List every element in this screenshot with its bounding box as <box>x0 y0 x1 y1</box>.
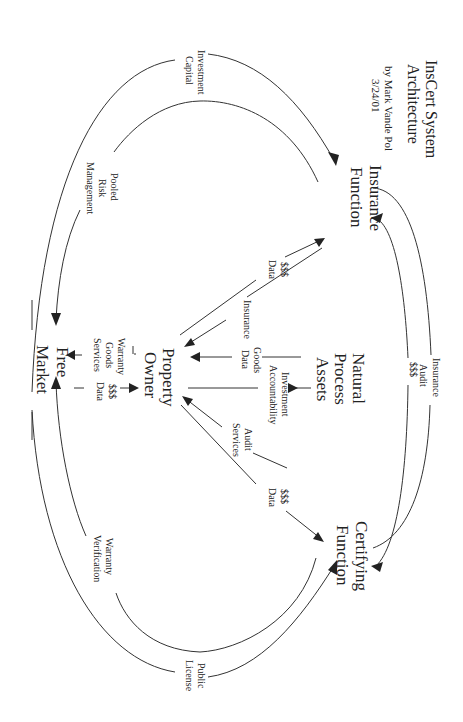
svg-text:Services: Services <box>92 338 103 372</box>
flow-investment-capital: Investment Capital <box>32 50 339 392</box>
node-property-owner: Property Owner <box>141 348 178 407</box>
svg-text:Services: Services <box>231 423 242 457</box>
svg-text:Accountability: Accountability <box>268 365 279 424</box>
svg-text:Certifying: Certifying <box>352 521 371 591</box>
svg-text:Goods: Goods <box>252 347 263 373</box>
node-natural-process-assets: Natural Process Assets <box>313 353 368 405</box>
svg-text:Verification: Verification <box>92 535 103 582</box>
flow-insurance-certifying-money: $$$ <box>371 213 419 572</box>
svg-text:Insurance: Insurance <box>366 165 385 231</box>
svg-text:$$$: $$$ <box>279 489 290 504</box>
svg-text:Risk: Risk <box>97 179 108 197</box>
arrowhead-icon <box>184 338 195 347</box>
svg-text:Management: Management <box>85 162 96 214</box>
arrowhead-icon <box>182 396 193 406</box>
flow-pooled-risk-management: Pooled Risk Management <box>51 101 318 326</box>
title-line-2: Architecture <box>405 64 422 144</box>
svg-text:Audit: Audit <box>243 428 254 451</box>
flow-market-to-owner: $$$ Data <box>74 382 139 401</box>
svg-text:Data: Data <box>267 260 278 279</box>
svg-text:Data: Data <box>267 488 278 507</box>
svg-text:Insurance: Insurance <box>431 358 442 397</box>
svg-text:Warranty: Warranty <box>116 338 127 375</box>
architecture-diagram: InsCert System Architecture by Mark Vand… <box>0 0 463 722</box>
flow-goods-data: Goods Data <box>190 347 301 373</box>
svg-text:Data: Data <box>240 350 251 369</box>
svg-text:Investment: Investment <box>196 50 207 95</box>
svg-text:$$$: $$$ <box>107 384 118 399</box>
svg-text:Assets: Assets <box>313 357 332 401</box>
arrowhead-icon <box>129 383 139 393</box>
svg-text:Goods: Goods <box>104 342 115 368</box>
svg-text:Investment: Investment <box>280 372 291 417</box>
svg-text:Warranty: Warranty <box>104 538 115 575</box>
title-block: InsCert System Architecture by Mark Vand… <box>370 60 440 159</box>
svg-text:$$$: $$$ <box>408 362 419 377</box>
svg-text:Free: Free <box>53 347 72 377</box>
svg-text:Function: Function <box>333 525 352 586</box>
svg-text:Data: Data <box>95 382 106 401</box>
arrowhead-icon <box>51 313 61 326</box>
arrowhead-icon <box>190 352 200 362</box>
date: 3/24/01 <box>370 79 382 113</box>
svg-text:Natural: Natural <box>349 353 368 404</box>
flow-public-license: Public License <box>32 410 337 692</box>
svg-text:Public: Public <box>196 663 207 689</box>
svg-text:License: License <box>184 660 195 692</box>
svg-text:Capital: Capital <box>184 56 195 85</box>
flow-insurance-audit: Insurance Audit <box>373 188 442 548</box>
svg-text:Function: Function <box>347 167 366 228</box>
arrowhead-icon <box>371 562 383 572</box>
arrowhead-icon <box>328 152 339 166</box>
flow-owner-to-certifying: $$$ Data <box>181 405 324 542</box>
svg-text:Property: Property <box>159 348 178 407</box>
svg-text:Market: Market <box>33 345 52 394</box>
flow-insurance-to-owner: Insurance <box>184 248 322 347</box>
svg-text:Pooled: Pooled <box>109 173 120 201</box>
author: by Mark Vande Pol <box>383 66 395 151</box>
title-line-1: InsCert System <box>422 60 440 159</box>
node-certifying-function: Certifying Function <box>333 521 371 591</box>
flow-owner-to-market: Warranty Goods Services <box>66 338 135 375</box>
svg-text:Process: Process <box>331 353 350 405</box>
svg-text:Insurance: Insurance <box>242 300 253 339</box>
svg-text:Owner: Owner <box>141 352 160 399</box>
